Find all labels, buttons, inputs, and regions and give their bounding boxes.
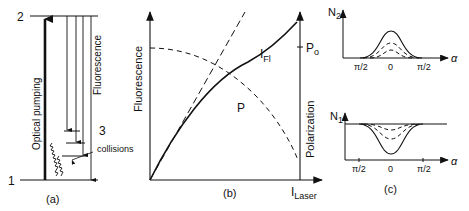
- fluorescence-axis-label: Fluorescence: [132, 46, 144, 112]
- n2-tick-left: π/2: [354, 62, 368, 72]
- figure-canvas: 2 1 Optical pumping Fluorescence 3 colli…: [0, 0, 469, 211]
- ilaser-label: ILaser: [291, 185, 317, 201]
- level-2-label: 2: [17, 10, 24, 24]
- panel-a-caption: (a): [46, 193, 59, 205]
- n1-curve-solid: [359, 124, 423, 154]
- n1-curve-dashed: [361, 124, 421, 139]
- n1-tick-center: 0: [388, 164, 393, 174]
- p0-label: Po: [306, 41, 319, 57]
- n2-curve-solid: [360, 31, 422, 58]
- n2-tick-center: 0: [388, 62, 393, 72]
- panel-b-caption: (b): [223, 187, 236, 199]
- n1-x-label: α: [451, 155, 458, 167]
- n1-label: N1: [330, 110, 343, 125]
- level-1-label: 1: [8, 174, 15, 188]
- n2-x-label: α: [451, 52, 458, 64]
- collision-wavy-line: [50, 143, 58, 176]
- panel-b-fluorescence-plot: Fluorescence Polarization IFl P Po ILase…: [132, 12, 322, 201]
- n1-tick-left: π/2: [352, 164, 366, 174]
- n1-tick-right: π/2: [417, 164, 431, 174]
- polarization-curve: [150, 48, 298, 160]
- p-label: P: [237, 101, 245, 115]
- collisions-label: collisions: [97, 144, 134, 154]
- ifl-label: IFl: [260, 47, 271, 64]
- optical-pumping-label: Optical pumping: [31, 78, 42, 150]
- n2-tick-right: π/2: [417, 62, 431, 72]
- level-3-label: 3: [99, 124, 106, 138]
- panel-c-population-plots: N2 π/2 0 π/2 α N1 π/2 0 π/2 α (c): [328, 6, 458, 195]
- fluorescence-curve: [150, 22, 297, 180]
- n2-label: N2: [328, 6, 341, 21]
- fluorescence-label-a: Fluorescence: [92, 35, 103, 95]
- panel-c-caption: (c): [384, 183, 397, 195]
- polarization-axis-label: Polarization: [304, 101, 316, 158]
- panel-a-energy-diagram: 2 1 Optical pumping Fluorescence 3 colli…: [8, 10, 134, 205]
